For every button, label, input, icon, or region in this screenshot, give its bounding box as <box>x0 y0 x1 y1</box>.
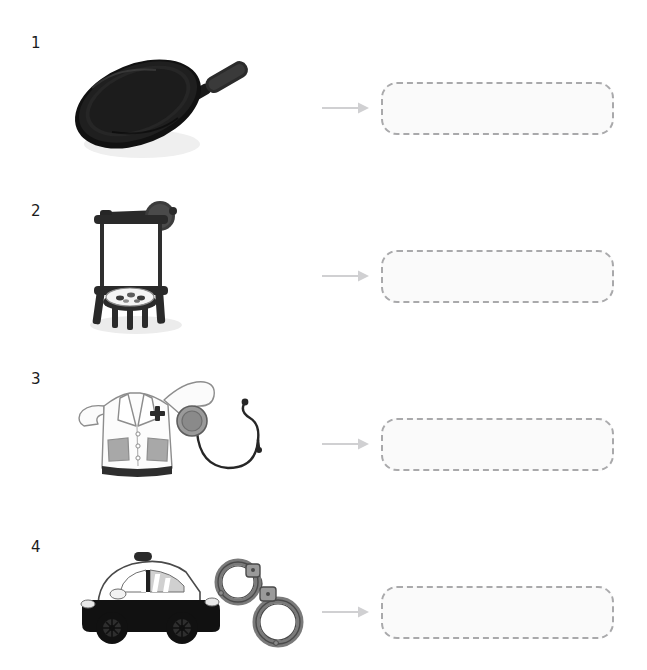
worksheet-row: 3 <box>0 354 647 522</box>
arrow-right-icon <box>322 436 370 452</box>
worksheet-row: 2 <box>0 186 647 354</box>
worksheet-row: 1 <box>0 18 647 186</box>
answer-box[interactable] <box>381 586 614 639</box>
worksheet-row: 4 <box>0 522 647 670</box>
frying-pan-illustration <box>60 26 310 176</box>
easel-illustration <box>60 194 310 344</box>
police-car-and-handcuffs-illustration <box>60 530 310 670</box>
row-number-label: 4 <box>31 540 41 555</box>
row-number-label: 2 <box>31 204 41 219</box>
row-number-label: 1 <box>31 36 41 51</box>
worksheet-page: 1 <box>0 0 647 670</box>
arrow-right-icon <box>322 268 370 284</box>
answer-box[interactable] <box>381 82 614 135</box>
answer-box[interactable] <box>381 250 614 303</box>
arrow-right-icon <box>322 604 370 620</box>
lab-coat-and-stethoscope-illustration <box>60 362 310 512</box>
answer-box[interactable] <box>381 418 614 471</box>
row-number-label: 3 <box>31 372 41 387</box>
arrow-right-icon <box>322 100 370 116</box>
